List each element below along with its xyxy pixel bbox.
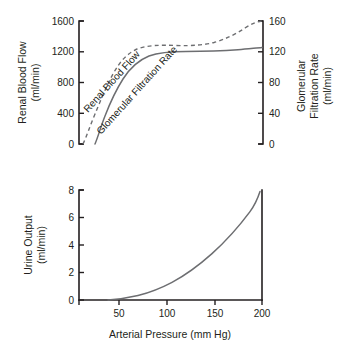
bottom-panel: 0 2 4 6 8 Urine Output (ml/min) 50 100 1… <box>22 185 271 341</box>
bottom-left-ticklabel-8: 8 <box>68 185 74 196</box>
bottom-left-ticklabel-6: 6 <box>68 212 74 223</box>
bottom-x-axis-title: Arterial Pressure (mm Hg) <box>109 328 231 340</box>
top-left-axis-title-line1: Renal Blood Flow <box>16 41 28 124</box>
top-left-ticklabel-400: 400 <box>57 108 74 119</box>
top-right-axis-title-line2: Filtration Rate <box>308 53 320 119</box>
bottom-left-axis-title-line2: (ml/min) <box>35 226 47 264</box>
curve-label-renal-blood-flow: Renal Blood Flow <box>81 48 142 114</box>
top-left-ticklabel-800: 800 <box>57 77 74 88</box>
top-left-ticklabel-1200: 1200 <box>52 46 75 57</box>
renal-autoregulation-figure: 0 400 800 1200 1600 Renal Blood Flow (ml… <box>0 0 343 348</box>
top-left-ticklabel-1600: 1600 <box>52 16 75 27</box>
bottom-left-axis-title-line1: Urine Output <box>22 215 34 275</box>
top-right-ticklabel-40: 40 <box>269 108 281 119</box>
bottom-x-ticklabel-200: 200 <box>254 308 271 319</box>
bottom-left-ticklabel-0: 0 <box>68 295 74 306</box>
top-right-axis-title-line3: (ml/min) <box>321 67 333 105</box>
top-right-ticklabel-0: 0 <box>269 139 275 150</box>
figure-canvas: 0 400 800 1200 1600 Renal Blood Flow (ml… <box>0 0 343 348</box>
bottom-left-ticklabel-4: 4 <box>68 240 74 251</box>
bottom-left-ticklabel-2: 2 <box>68 267 74 278</box>
top-left-ticklabel-0: 0 <box>68 139 74 150</box>
top-left-axis-title-line2: (ml/min) <box>29 64 41 102</box>
bottom-x-ticklabel-50: 50 <box>113 308 125 319</box>
urine-output-curve <box>108 192 260 301</box>
top-panel: 0 400 800 1200 1600 Renal Blood Flow (ml… <box>16 16 333 150</box>
bottom-x-ticklabel-150: 150 <box>207 308 224 319</box>
bottom-x-ticklabel-100: 100 <box>159 308 176 319</box>
top-right-ticklabel-80: 80 <box>269 77 281 88</box>
top-right-ticklabel-120: 120 <box>269 46 286 57</box>
top-right-ticklabel-160: 160 <box>269 16 286 27</box>
top-right-axis-title-line1: Glomerular <box>295 60 307 112</box>
